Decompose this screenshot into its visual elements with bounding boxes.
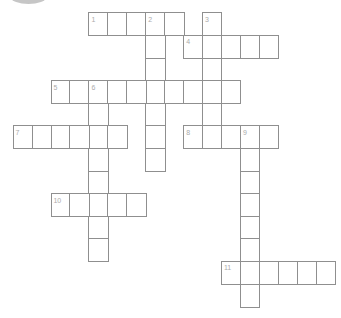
crossword-cell[interactable] [259, 261, 279, 285]
crossword-cell[interactable] [126, 80, 146, 104]
crossword-cell[interactable] [126, 193, 146, 217]
clue-number-2: 2 [148, 16, 152, 23]
crossword-cell[interactable] [221, 35, 241, 59]
crossword-cell[interactable] [145, 80, 165, 104]
crossword-cell[interactable] [88, 125, 108, 149]
crossword-cell[interactable] [107, 80, 127, 104]
crossword-cell[interactable] [164, 80, 184, 104]
clue-number-11: 11 [224, 264, 231, 271]
crossword-puzzle: 1234567891011 [0, 0, 341, 318]
crossword-cell[interactable] [240, 35, 260, 59]
clue-number-5: 5 [54, 84, 58, 91]
crossword-cell[interactable] [32, 125, 52, 149]
crossword-cell[interactable] [145, 58, 165, 82]
crossword-cell[interactable] [202, 103, 222, 127]
crossword-cell[interactable] [88, 171, 108, 195]
crossword-cell[interactable] [202, 58, 222, 82]
crossword-cell[interactable] [126, 12, 146, 36]
clue-number-3: 3 [205, 16, 209, 23]
crossword-cell[interactable] [107, 12, 127, 36]
crossword-cell[interactable] [240, 261, 260, 285]
crossword-cell[interactable] [164, 12, 184, 36]
crossword-cell[interactable] [88, 238, 108, 262]
logo-fragment [11, 0, 46, 4]
crossword-cell[interactable] [259, 125, 279, 149]
crossword-cell[interactable] [240, 148, 260, 172]
crossword-cell[interactable] [240, 238, 260, 262]
crossword-cell[interactable] [88, 148, 108, 172]
crossword-cell[interactable] [297, 261, 317, 285]
crossword-cell[interactable] [51, 125, 71, 149]
crossword-cell[interactable] [202, 125, 222, 149]
crossword-cell[interactable] [145, 35, 165, 59]
crossword-cell[interactable] [69, 193, 89, 217]
crossword-cell[interactable] [145, 103, 165, 127]
crossword-cell[interactable] [183, 80, 203, 104]
crossword-cell[interactable] [107, 125, 127, 149]
crossword-cell[interactable] [202, 35, 222, 59]
crossword-cell[interactable] [259, 35, 279, 59]
crossword-cell[interactable] [69, 125, 89, 149]
clue-number-7: 7 [16, 129, 20, 136]
crossword-cell[interactable] [88, 103, 108, 127]
crossword-cell[interactable] [240, 284, 260, 308]
crossword-cell[interactable] [240, 193, 260, 217]
crossword-cell[interactable] [145, 125, 165, 149]
crossword-cell[interactable] [88, 193, 108, 217]
crossword-cell[interactable] [107, 193, 127, 217]
crossword-cell[interactable] [69, 80, 89, 104]
clue-number-1: 1 [91, 16, 95, 23]
clue-number-6: 6 [91, 84, 95, 91]
crossword-cell[interactable] [221, 125, 241, 149]
clue-number-8: 8 [186, 129, 190, 136]
crossword-cell[interactable] [278, 261, 298, 285]
crossword-cell[interactable] [221, 80, 241, 104]
crossword-cell[interactable] [145, 148, 165, 172]
crossword-cell[interactable] [202, 80, 222, 104]
crossword-cell[interactable] [240, 216, 260, 240]
clue-number-9: 9 [243, 129, 247, 136]
clue-number-4: 4 [186, 38, 190, 45]
crossword-cell[interactable] [240, 171, 260, 195]
crossword-cell[interactable] [88, 216, 108, 240]
clue-number-10: 10 [54, 197, 61, 204]
crossword-cell[interactable] [316, 261, 336, 285]
